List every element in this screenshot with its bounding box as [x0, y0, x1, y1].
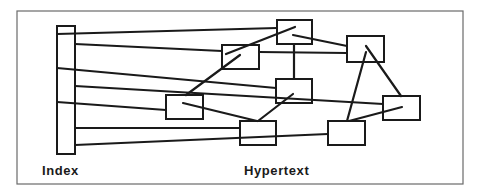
index-bar [57, 26, 75, 154]
index-hypertext-diagram: Index Hypertext [0, 0, 480, 194]
hypertext-label: Hypertext [244, 163, 309, 178]
index-label: Index [42, 163, 79, 178]
hypertext-node-upper-right [347, 36, 384, 62]
hypertext-node-bottom-center [240, 121, 276, 145]
node-link-n2-n3 [259, 52, 347, 53]
hypertext-node-bottom-right [328, 121, 365, 145]
